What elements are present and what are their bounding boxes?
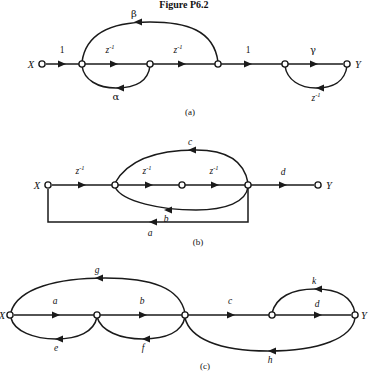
label-a-forward-1: 1 — [60, 45, 65, 55]
label-c-f: f — [142, 343, 146, 353]
arrowhead-b-3 — [211, 182, 219, 189]
label-b-forward-3-exp: -1 — [213, 164, 218, 171]
node-b-output — [315, 182, 321, 188]
arrowhead-b-2 — [145, 182, 153, 189]
node-a-output — [344, 61, 350, 67]
edge-c-k — [272, 289, 355, 313]
node-c-output — [352, 312, 358, 318]
label-c-c: c — [228, 296, 233, 306]
label-b-forward-1-exp: -1 — [79, 164, 84, 171]
arrowhead-c-g — [95, 275, 103, 282]
arrowhead-c-f — [142, 336, 150, 343]
label-a-forward-2-exp: -1 — [109, 43, 114, 50]
label-a-forward-3: z-1 — [172, 43, 182, 55]
label-c-k: k — [312, 276, 317, 286]
edge-a-output-feedback — [285, 66, 347, 88]
arrowhead-c-4 — [314, 312, 322, 319]
panel-b: X Y z-1 z-1 z-1 d c b a (b) — [33, 137, 333, 247]
node-c-input — [7, 312, 13, 318]
arrowhead-a-2 — [110, 61, 118, 68]
node-b-2 — [179, 182, 185, 188]
label-b-b: b — [164, 214, 169, 224]
label-a-forward-4: 1 — [246, 45, 251, 55]
label-a-output: Y — [355, 59, 362, 70]
arrowhead-a-1 — [58, 61, 66, 68]
label-b-forward-d: d — [281, 167, 286, 177]
arrowhead-b-4 — [279, 182, 287, 189]
arrowhead-a-beta — [134, 19, 142, 26]
edge-c-g — [11, 278, 185, 313]
arrowhead-a-3 — [178, 61, 186, 68]
node-a-2 — [147, 61, 153, 67]
edge-c-e — [11, 317, 97, 339]
arrowhead-a-5 — [310, 61, 318, 68]
arrowhead-a-4 — [244, 61, 252, 68]
label-c-h: h — [268, 355, 273, 365]
label-b-forward-2: z-1 — [141, 164, 151, 176]
label-b-forward-2-exp: -1 — [146, 164, 151, 171]
label-c-d: d — [315, 299, 320, 309]
arrowhead-c-1 — [52, 312, 60, 319]
signal-flow-graph-svg: Figure P6.2 — [0, 0, 369, 374]
label-c-e: e — [54, 343, 58, 353]
node-a-3 — [215, 61, 221, 67]
panel-a: X Y 1 z-1 z-1 1 γ β α z-1 (a) — [27, 8, 362, 117]
label-b-a: a — [148, 228, 153, 238]
node-a-input — [39, 61, 45, 67]
label-b-forward-3: z-1 — [208, 164, 218, 176]
label-c-b: b — [140, 296, 145, 306]
arrowhead-c-2 — [139, 312, 147, 319]
arrowhead-c-h — [268, 348, 276, 355]
edge-c-f — [97, 317, 185, 339]
caption-b: (b) — [193, 237, 204, 247]
arrowhead-b-c — [188, 147, 196, 154]
label-b-c: c — [188, 137, 193, 147]
caption-a: (a) — [185, 107, 195, 117]
arrowhead-b-a — [149, 219, 157, 226]
label-c-g: g — [95, 265, 100, 275]
arrowhead-c-k — [314, 286, 322, 293]
panel-c: X Y a b c d g e f h k (c) — [0, 265, 368, 371]
label-a-feedback-z: z-1 — [310, 91, 320, 103]
label-a-alpha: α — [113, 91, 120, 102]
edge-b-c — [115, 150, 248, 183]
label-c-output: Y — [361, 310, 368, 321]
node-c-1 — [94, 312, 100, 318]
label-c-a: a — [53, 296, 58, 306]
label-b-forward-1: z-1 — [74, 164, 84, 176]
label-b-output: Y — [326, 180, 333, 191]
label-a-forward-2: z-1 — [104, 43, 114, 55]
node-a-4 — [282, 61, 288, 67]
caption-c: (c) — [200, 361, 210, 371]
node-c-3 — [269, 312, 275, 318]
label-a-gamma: γ — [310, 44, 316, 55]
node-b-3 — [245, 182, 251, 188]
label-a-beta: β — [131, 8, 137, 19]
label-a-input: X — [27, 59, 35, 70]
edge-a-beta — [82, 22, 218, 62]
arrowhead-c-3 — [227, 312, 235, 319]
label-c-input: X — [0, 310, 6, 321]
arrowhead-c-e — [55, 336, 63, 343]
node-b-input — [45, 182, 51, 188]
arrowhead-b-1 — [78, 182, 86, 189]
edge-b-b — [115, 187, 248, 210]
node-c-2 — [182, 312, 188, 318]
figure-title: Figure P6.2 — [159, 0, 208, 10]
figure-container: Figure P6.2 — [0, 0, 369, 374]
node-b-1 — [112, 182, 118, 188]
label-a-feedback-z-exp: -1 — [315, 91, 320, 98]
label-a-forward-3-exp: -1 — [177, 43, 182, 50]
node-a-1 — [79, 61, 85, 67]
edge-c-h — [185, 318, 355, 351]
edge-a-alpha — [82, 66, 150, 88]
label-b-input: X — [33, 180, 41, 191]
